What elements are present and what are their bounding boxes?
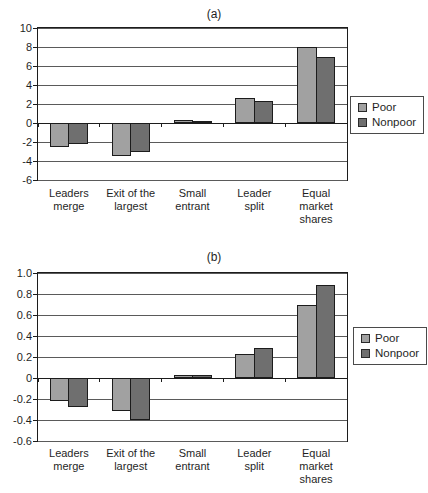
nonpoor-swatch-icon (358, 118, 367, 127)
gridline (38, 104, 347, 105)
y-tick-label: 0.8 (2, 288, 32, 301)
category-tick-mark (223, 123, 224, 127)
y-tick-mark (33, 161, 38, 162)
y-tick-mark (33, 180, 38, 181)
y-tick-mark (33, 47, 38, 48)
legend-label-poor: Poor (372, 101, 396, 114)
y-tick-label: 10 (2, 22, 32, 35)
bar-nonpoor-category-3 (254, 348, 274, 378)
bar-nonpoor-category-1 (130, 378, 150, 420)
legend-item-poor: Poor (361, 332, 419, 345)
bar-nonpoor-category-0 (68, 378, 88, 407)
y-tick-label: 8 (2, 41, 32, 54)
y-tick-label: -2 (2, 136, 32, 149)
bar-poor-category-0 (50, 378, 70, 401)
legend-item-nonpoor: Nonpoor (358, 116, 416, 129)
nonpoor-swatch-icon (361, 349, 370, 358)
category-label: Leader split (219, 187, 289, 213)
gridline (38, 180, 347, 181)
category-tick-mark (99, 378, 100, 382)
gridline (38, 420, 347, 421)
zero-axis-line (38, 123, 347, 124)
category-label: Leaders merge (34, 187, 104, 213)
gridline (38, 123, 347, 124)
chart-b: (b) 1.00.80.60.40.20-0.2-0.4-0.6 Leaders… (0, 0, 428, 493)
bar-nonpoor-category-3 (254, 101, 274, 123)
y-tick-mark (33, 85, 38, 86)
gridline (38, 142, 347, 143)
category-tick-mark (38, 123, 39, 127)
legend-label-nonpoor: Nonpoor (375, 347, 419, 360)
gridline (38, 294, 347, 295)
bar-nonpoor-category-4 (316, 285, 336, 378)
bar-poor-category-1 (112, 378, 132, 411)
y-tick-label: -6 (2, 174, 32, 187)
y-tick-label: 4 (2, 79, 32, 92)
chart-b-plot: 1.00.80.60.40.20-0.2-0.4-0.6 (37, 272, 348, 442)
category-label: Small entrant (158, 447, 228, 473)
gridline (38, 273, 347, 274)
gridline (38, 336, 347, 337)
category-tick-mark (347, 378, 348, 382)
y-tick-label: 0 (2, 117, 32, 130)
bar-poor-category-4 (297, 47, 317, 123)
y-tick-mark (33, 104, 38, 105)
chart-a-plot: 1086420-2-4-6 (37, 27, 348, 181)
bar-poor-category-4 (297, 305, 317, 379)
category-tick-mark (223, 378, 224, 382)
chart-a-legend: Poor Nonpoor (350, 96, 424, 134)
bar-nonpoor-category-1 (130, 123, 150, 152)
y-tick-label: 6 (2, 60, 32, 73)
category-tick-mark (38, 378, 39, 382)
category-tick-mark (99, 123, 100, 127)
gridline (38, 315, 347, 316)
gridline (38, 441, 347, 442)
legend-item-poor: Poor (358, 101, 416, 114)
category-label: Equal market shares (281, 447, 351, 486)
category-label: Exit of the largest (96, 187, 166, 213)
zero-axis-line (38, 378, 347, 379)
gridline (38, 47, 347, 48)
figure-canvas: (a) 1086420-2-4-6 Leaders mergeExit of t… (0, 0, 428, 493)
bar-poor-category-1 (112, 123, 132, 156)
y-tick-mark (33, 294, 38, 295)
y-tick-mark (33, 441, 38, 442)
gridline (38, 28, 347, 29)
y-tick-mark (33, 142, 38, 143)
y-tick-label: 0.4 (2, 330, 32, 343)
category-label: Exit of the largest (96, 447, 166, 473)
bar-poor-category-2 (174, 120, 194, 123)
y-tick-mark (33, 378, 38, 379)
bar-poor-category-3 (235, 354, 255, 378)
y-tick-label: 0.6 (2, 309, 32, 322)
chart-a-title: (a) (0, 7, 428, 21)
chart-b-title: (b) (0, 250, 428, 264)
y-tick-label: 0 (2, 372, 32, 385)
category-label: Leaders merge (34, 447, 104, 473)
poor-swatch-icon (361, 334, 370, 343)
category-label: Small entrant (158, 187, 228, 213)
bar-nonpoor-category-0 (68, 123, 88, 144)
category-tick-mark (161, 123, 162, 127)
category-tick-mark (347, 123, 348, 127)
bar-nonpoor-category-4 (316, 57, 336, 124)
y-tick-mark (33, 66, 38, 67)
y-tick-mark (33, 336, 38, 337)
gridline (38, 357, 347, 358)
gridline (38, 85, 347, 86)
category-tick-mark (285, 378, 286, 382)
legend-label-poor: Poor (375, 332, 399, 345)
gridline (38, 378, 347, 379)
y-tick-mark (33, 357, 38, 358)
gridline (38, 66, 347, 67)
category-label: Leader split (219, 447, 289, 473)
bar-poor-category-2 (174, 375, 194, 378)
bar-nonpoor-category-2 (192, 375, 212, 378)
y-tick-mark (33, 315, 38, 316)
y-tick-label: -0.4 (2, 414, 32, 427)
gridline (38, 161, 347, 162)
category-label: Equal market shares (281, 187, 351, 226)
chart-a: (a) 1086420-2-4-6 Leaders mergeExit of t… (0, 0, 428, 493)
y-tick-label: 2 (2, 98, 32, 111)
y-tick-mark (33, 273, 38, 274)
